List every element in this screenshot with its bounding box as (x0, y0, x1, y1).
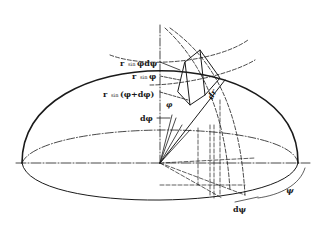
label-phi: φ (166, 100, 173, 109)
latitude-arc-1 (110, 40, 248, 62)
psi-arc (258, 168, 305, 198)
base-ellipse-front (22, 163, 298, 200)
label-dr: dr (205, 87, 219, 101)
hemisphere-diagram: r sin φdψ r sin φ r sin (φ+dφ) φ dφ dr ψ… (0, 0, 327, 226)
svg-text:φ: φ (149, 71, 156, 81)
meridian-2 (170, 28, 245, 195)
svg-text:(φ+dφ): (φ+dφ) (120, 89, 155, 99)
label-r-sin-phi-plus-dphi: r sin (φ+dφ) (103, 89, 155, 99)
label-dpsi: dψ (233, 204, 247, 214)
dpsi-arc (235, 197, 258, 202)
svg-text:sin: sin (111, 92, 119, 98)
label-dphi: dφ (140, 113, 153, 123)
svg-text:φdψ: φdψ (137, 58, 158, 68)
svg-text:r: r (103, 89, 108, 99)
svg-text:r: r (120, 58, 125, 68)
label-r-sin-phi: r sin φ (132, 71, 156, 81)
svg-text:sin: sin (140, 74, 148, 80)
svg-text:sin: sin (128, 61, 136, 67)
label-psi: ψ (286, 185, 294, 195)
